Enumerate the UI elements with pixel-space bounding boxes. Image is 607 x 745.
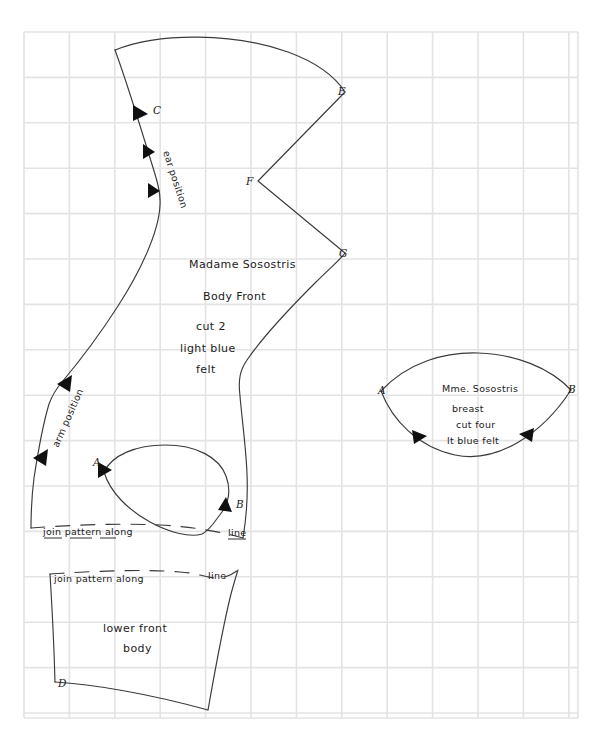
body-front-cut-count: cut 2 xyxy=(196,320,226,333)
marker-label-D: D xyxy=(57,677,67,689)
ear-position-arrow-1 xyxy=(133,105,148,121)
body-front-zigzag-edge xyxy=(258,92,345,253)
marker-label-A-breast: A xyxy=(377,384,386,396)
body-front-piece: C E F G ear position arm position Madame… xyxy=(31,37,347,539)
arm-position-arrow-bottom xyxy=(33,449,48,466)
lower-front-body-piece: join pattern along line lower front body… xyxy=(50,570,238,710)
breast-opening-arrow-B xyxy=(218,497,232,512)
marker-label-E: E xyxy=(337,85,346,97)
marker-label-F: F xyxy=(245,175,254,187)
breast-notch-arrow-left xyxy=(412,430,427,444)
marker-label-C: C xyxy=(153,104,161,116)
body-front-top-arc xyxy=(115,37,345,92)
body-front-title: Madame Sosostris xyxy=(189,258,296,271)
ear-position-arrow-2 xyxy=(143,144,155,159)
lower-front-subtitle: body xyxy=(123,642,152,655)
lower-front-bottom-edge xyxy=(55,682,208,710)
ear-position-label: ear position xyxy=(161,149,190,209)
pattern-sheet-page: C E F G ear position arm position Madame… xyxy=(0,0,607,745)
marker-label-B-breast: B xyxy=(567,383,576,395)
lower-front-join-note-suffix: line xyxy=(208,570,226,581)
breast-material: lt blue felt xyxy=(447,435,499,446)
lower-front-title: lower front xyxy=(103,622,167,635)
body-front-material-type: felt xyxy=(196,363,216,376)
body-front-material: light blue xyxy=(180,342,236,355)
lower-front-right-edge xyxy=(208,570,238,710)
breast-subtitle: breast xyxy=(452,403,484,414)
arm-position-label: arm position xyxy=(50,387,86,449)
lower-front-left-edge xyxy=(50,574,55,682)
grid-background xyxy=(24,32,578,718)
body-front-join-note: join pattern along xyxy=(42,526,133,537)
marker-label-A-body: A xyxy=(92,456,101,468)
marker-label-B-body: B xyxy=(235,498,244,510)
body-front-join-note-suffix: line xyxy=(228,527,246,538)
breast-opening-outline xyxy=(104,445,229,535)
pattern-drawing-canvas: C E F G ear position arm position Madame… xyxy=(0,0,607,745)
lower-front-join-note: join pattern along xyxy=(53,573,144,584)
breast-title: Mme. Sosostris xyxy=(442,383,518,394)
breast-cut-count: cut four xyxy=(456,419,495,430)
marker-label-G: G xyxy=(339,247,347,259)
body-front-subtitle: Body Front xyxy=(203,290,266,303)
arm-position-arrow-top xyxy=(57,375,72,392)
